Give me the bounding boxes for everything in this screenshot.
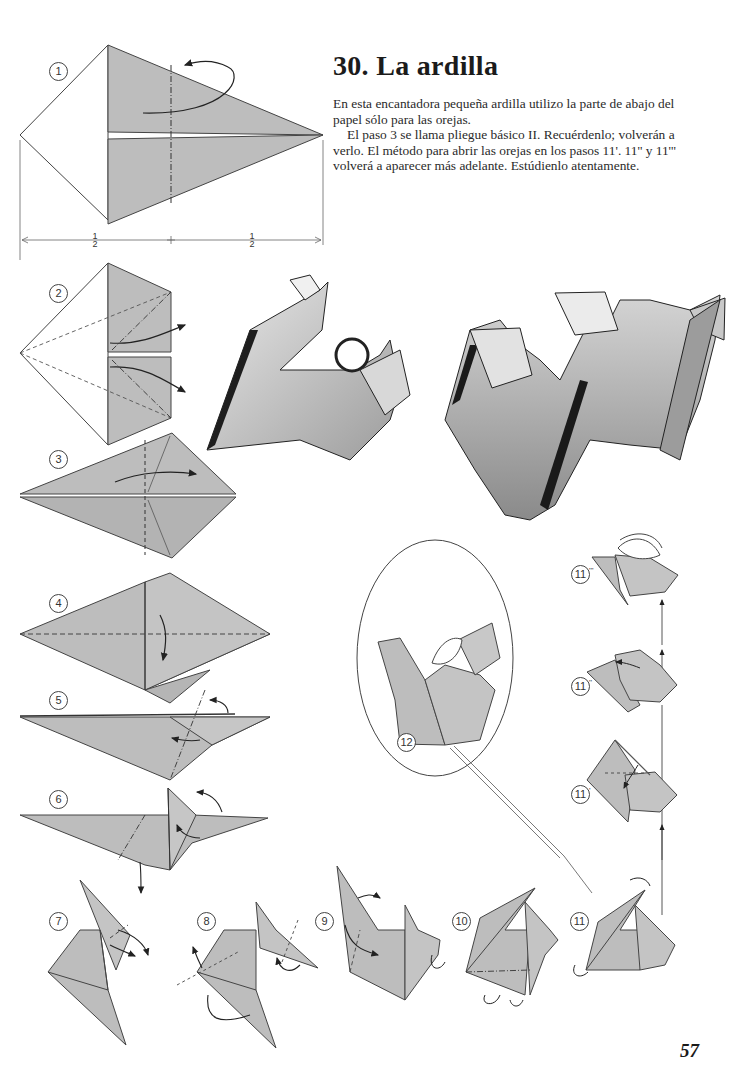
photo-squirrel-single	[207, 275, 410, 460]
measure-half-left: 1 2	[90, 232, 100, 248]
step-11-triple-prime-diagram	[592, 534, 678, 605]
step-label-2: 2	[49, 284, 68, 303]
step-label-11-triple-prime: 11'''	[571, 565, 590, 584]
step-label-9: 9	[315, 912, 334, 931]
page-number: 57	[680, 1040, 699, 1062]
step-11-diagram	[574, 705, 675, 976]
step-label-11-prime: 11'	[571, 785, 590, 804]
step-number: 11	[575, 568, 586, 580]
step-11-double-prime-diagram	[587, 600, 677, 712]
step-10-diagram	[466, 888, 558, 1006]
step-4-diagram	[20, 573, 270, 703]
step-label-8: 8	[197, 912, 216, 931]
prime-mark: ''	[589, 674, 592, 691]
photo-squirrel-pair	[445, 292, 725, 520]
step-label-7: 7	[49, 912, 68, 931]
measure-half-right: 1 2	[247, 232, 257, 248]
step-7-diagram	[48, 880, 148, 1045]
step-label-3: 3	[49, 450, 68, 469]
step-label-10: 10	[452, 912, 471, 931]
prime-mark: '	[589, 782, 591, 799]
step-label-5: 5	[49, 691, 68, 710]
folding-diagrams	[0, 0, 736, 1080]
step-label-11-double-prime: 11''	[571, 677, 590, 696]
step-label-6: 6	[49, 790, 68, 809]
step-number: 11	[575, 788, 586, 800]
step-number: 11	[575, 680, 586, 692]
step-label-12: 12	[397, 733, 416, 752]
step-9-diagram	[337, 866, 445, 1000]
step-label-11: 11	[570, 912, 589, 931]
step-2-diagram	[20, 263, 185, 445]
step-label-4: 4	[49, 594, 68, 613]
fraction-denominator: 2	[247, 240, 257, 248]
step-12-diagram	[357, 540, 592, 893]
prime-mark: '''	[589, 562, 594, 579]
fraction-denominator: 2	[90, 240, 100, 248]
step-label-1: 1	[49, 62, 68, 81]
